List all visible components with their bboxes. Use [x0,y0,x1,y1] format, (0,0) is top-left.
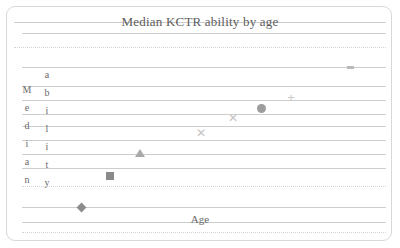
data-point-cross-1: ✕ [195,127,207,139]
gridline [22,67,386,68]
median-letter: d [20,121,34,131]
ability-letter: l [40,124,54,134]
gridline [22,168,386,169]
y-axis-label-median: Median [20,85,34,193]
data-point-diamond [76,202,86,212]
gridline [22,86,386,87]
gridline [22,140,386,141]
chart-title: Median KCTR ability by age [0,14,400,30]
gridline [14,47,386,48]
data-point-plus: + [286,92,297,103]
ability-letter: y [40,178,54,188]
gridline [22,33,386,34]
median-letter: a [20,157,34,167]
gridline [22,100,386,101]
ability-letter: i [40,142,54,152]
data-point-cross-2: ✕ [227,112,239,124]
median-letter: n [20,175,34,185]
ability-letter: i [40,106,54,116]
ability-letter: b [40,88,54,98]
data-point-dash [347,66,354,69]
ability-letter: t [40,160,54,170]
gridline [22,154,386,155]
y-axis-label-ability: ability [40,70,54,196]
data-point-triangle [135,149,145,157]
median-letter: i [20,139,34,149]
median-letter: M [20,85,34,95]
data-point-circle [257,104,266,113]
gridline [22,186,386,187]
chart-plot-area: Median KCTR ability by age Median abilit… [0,0,400,248]
median-letter: e [20,103,34,113]
x-axis-label: Age [0,213,400,225]
ability-letter: a [40,70,54,80]
data-point-square [106,172,114,180]
gridline [22,232,386,233]
gridline [22,114,386,115]
